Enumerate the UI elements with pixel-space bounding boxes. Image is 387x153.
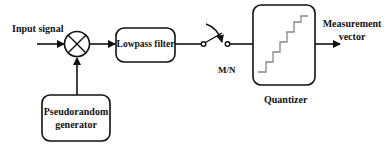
output-label-line1: Measurement [322, 17, 382, 30]
input-signal-label: Input signal [12, 23, 63, 35]
prng-label-line2: generator [42, 118, 110, 131]
quantizer-label: Quantizer [264, 94, 307, 106]
output-label: Measurement vector [322, 17, 382, 43]
switch-ratio-label: M/N [218, 64, 236, 76]
multiplier-icon [65, 32, 90, 57]
quantizer-block [253, 5, 315, 85]
prng-label: Pseudorandom generator [42, 105, 110, 131]
lowpass-filter-label: Lowpass filter [116, 38, 175, 51]
output-label-line2: vector [322, 30, 382, 43]
prng-label-line1: Pseudorandom [42, 105, 110, 118]
switch-icon [201, 24, 230, 46]
